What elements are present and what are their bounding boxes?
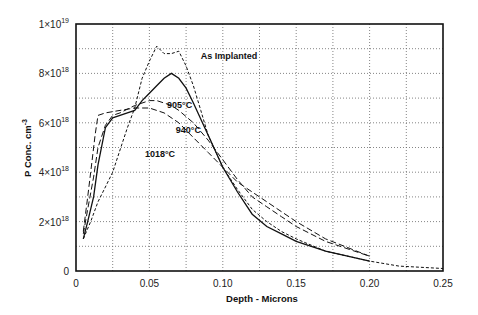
y-axis-label-main: P Conc. cm <box>22 125 33 177</box>
x-tick-label: 0 <box>73 278 79 289</box>
y-tick-label: 8×1018 <box>39 66 69 79</box>
y-axis-label-exponent: -3 <box>21 119 28 125</box>
series-group <box>83 46 443 268</box>
x-tick-label: 0.25 <box>433 278 453 289</box>
series-940-c <box>83 101 369 257</box>
y-tick-label: 0 <box>63 266 69 277</box>
grid-lines <box>76 24 443 271</box>
series-905-c <box>83 73 369 261</box>
x-tick-label: 0.05 <box>140 278 160 289</box>
phosphorus-depth-profile-chart: 02×10184×10186×10188×10181×1019 00.050.1… <box>0 0 478 315</box>
curve-label: 940°C <box>176 125 202 135</box>
y-axis-ticks: 02×10184×10186×10188×10181×1019 <box>39 17 70 277</box>
curve-labels: As Implanted905°C940°C1018°C <box>145 51 257 160</box>
curve-label: 905°C <box>167 100 193 110</box>
y-tick-label: 1×1019 <box>39 17 69 30</box>
x-tick-label: 0.15 <box>286 278 306 289</box>
y-tick-label: 2×1018 <box>39 215 69 228</box>
curve-label: As Implanted <box>201 51 258 61</box>
x-tick-label: 0.10 <box>213 278 233 289</box>
y-axis-label: P Conc. cm-3 <box>21 119 33 177</box>
x-axis-label: Depth - Microns <box>226 293 298 304</box>
y-tick-label: 4×1018 <box>39 165 69 178</box>
y-tick-label: 6×1018 <box>39 116 69 129</box>
series-as-implanted <box>83 46 443 268</box>
curve-label: 1018°C <box>145 149 176 159</box>
x-tick-label: 0.20 <box>360 278 380 289</box>
x-axis-ticks: 00.050.100.150.200.25 <box>73 278 453 289</box>
